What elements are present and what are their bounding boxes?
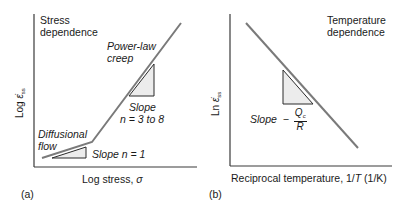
fraction-denominator: R: [294, 122, 307, 132]
diffusional-slope-label: Slope n = 1: [92, 148, 145, 160]
fraction-numerator: Qc: [294, 108, 307, 122]
diffusional-label-line2: flow: [38, 140, 57, 152]
panel-b-slope-label: Slope − Qc R: [250, 108, 307, 132]
slope-word: Slope: [250, 113, 277, 125]
power-law-slope-line1: Slope: [129, 101, 156, 113]
power-law-label-line1: Power-law: [107, 40, 156, 52]
stress-symbol: σ: [136, 173, 142, 185]
panel-b-x-axis-label: Reciprocal temperature, 1/T (1/K): [231, 172, 387, 184]
panel-b-slope-triangle: [283, 70, 313, 104]
x-axis-text: Reciprocal temperature, 1/: [231, 172, 355, 184]
activation-energy-fraction: Qc R: [294, 108, 307, 132]
diffusional-label-line1: Diffusional: [38, 128, 87, 140]
power-law-slope-line2: n = 3 to 8: [120, 113, 164, 125]
strain-rate-symbol: ε̇: [210, 98, 221, 102]
numerator-subscript: c: [303, 113, 306, 119]
panel-a-x-axis-label: Log stress, σ: [82, 173, 143, 185]
panel-b-y-axis-label: Ln ε̇ss: [210, 92, 222, 116]
strain-rate-symbol: ε̇: [14, 94, 25, 98]
panel-b-label: (b): [209, 188, 222, 200]
panel-a-title-line1: Stress: [40, 14, 70, 26]
x-axis-units: (1/K): [361, 172, 387, 184]
x-axis-text: Log stress,: [82, 173, 136, 185]
y-axis-prefix: Ln: [210, 105, 221, 116]
y-axis-prefix: Log: [14, 101, 25, 118]
panel-a-y-axis-label: Log ε̇ss: [14, 88, 26, 118]
panel-b-title-line1: Temperature: [327, 14, 386, 26]
power-law-label-line2: creep: [107, 52, 133, 64]
panel-a-label: (a): [21, 188, 34, 200]
panel-a-title-line2: dependence: [40, 26, 98, 38]
panel-a-slope-triangle-power-law: [129, 64, 154, 96]
panel-b-title-line2: dependence: [327, 26, 385, 38]
slope-sign: −: [283, 113, 289, 125]
y-axis-subscript: ss: [20, 88, 26, 94]
y-axis-subscript: ss: [216, 92, 222, 98]
numerator-q: Q: [295, 107, 303, 118]
